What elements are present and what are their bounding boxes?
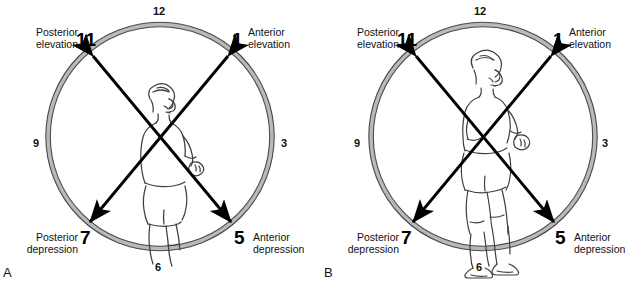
label-posterior-elevation-a: Posterior elevation [24, 27, 78, 50]
label-anterior-depression-a: Anterior depression [253, 232, 317, 255]
label-anterior-elevation-a: Anterior elevation [248, 27, 310, 50]
anterior-depression-line2-a: depression [253, 243, 304, 255]
panel-b: Posterior elevation 11 Anterior elevatio… [321, 0, 643, 283]
label-posterior-depression-a: Posterior depression [16, 232, 78, 255]
hour-marker-1-a: 1 [232, 30, 243, 49]
anterior-depression-line1-a: Anterior [253, 231, 290, 243]
posterior-depression-line1-b: Posterior [357, 231, 399, 243]
posterior-elevation-line2-a: elevation [36, 38, 78, 50]
hour-marker-6-a: 6 [155, 262, 161, 273]
arrow-1-to-7 [413, 56, 551, 222]
posterior-elevation-line1-a: Posterior [36, 26, 78, 38]
panel-letter-a: A [3, 265, 12, 280]
anterior-depression-line2-b: depression [574, 243, 625, 255]
anterior-elevation-line1-a: Anterior [248, 26, 285, 38]
label-posterior-depression-b: Posterior depression [337, 232, 399, 255]
posterior-depression-line2-a: depression [27, 243, 78, 255]
figure-canvas: Posterior elevation 11 Anterior elevatio… [0, 0, 643, 283]
posterior-elevation-line2-b: elevation [357, 38, 399, 50]
arrow-11-to-5 [93, 56, 231, 222]
hour-marker-12-a: 12 [153, 6, 165, 17]
arrow-11-to-5 [416, 56, 554, 222]
label-anterior-depression-b: Anterior depression [574, 232, 638, 255]
hour-marker-1-b: 1 [553, 30, 564, 49]
panel-letter-b: B [324, 265, 333, 280]
hour-marker-6-b: 6 [476, 262, 482, 273]
posterior-elevation-line1-b: Posterior [357, 26, 399, 38]
panel-a: Posterior elevation 11 Anterior elevatio… [0, 0, 322, 283]
hour-marker-5-a: 5 [234, 228, 245, 247]
hour-marker-11-a: 11 [76, 30, 96, 49]
hour-marker-5-b: 5 [555, 228, 566, 247]
hour-marker-7-a: 7 [80, 228, 91, 247]
human-figure-a [141, 84, 204, 266]
hour-marker-9-a: 9 [33, 138, 39, 149]
posterior-depression-line1-a: Posterior [36, 231, 78, 243]
anterior-elevation-line2-a: elevation [248, 38, 290, 50]
hour-marker-3-a: 3 [281, 138, 287, 149]
anterior-elevation-line2-b: elevation [569, 38, 611, 50]
arrow-1-to-7 [90, 56, 228, 222]
label-posterior-elevation-b: Posterior elevation [345, 27, 399, 50]
hour-marker-11-b: 11 [397, 30, 417, 49]
hour-marker-3-b: 3 [602, 138, 608, 149]
posterior-depression-line2-b: depression [348, 243, 399, 255]
hour-marker-7-b: 7 [401, 228, 412, 247]
anterior-elevation-line1-b: Anterior [569, 26, 606, 38]
direction-arrows-a [90, 56, 231, 222]
direction-arrows-b [413, 56, 554, 222]
label-anterior-elevation-b: Anterior elevation [569, 27, 631, 50]
hour-marker-9-b: 9 [354, 138, 360, 149]
anterior-depression-line1-b: Anterior [574, 231, 611, 243]
hour-marker-12-b: 12 [474, 6, 486, 17]
